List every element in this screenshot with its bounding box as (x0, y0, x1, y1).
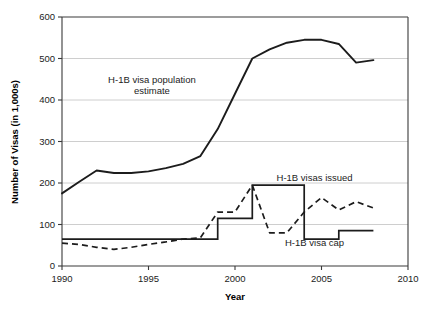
y-tick-label-100: 100 (39, 219, 55, 230)
x-tick-label-2000: 2000 (224, 273, 245, 284)
y-axis-title: Number of Visas (in 1,000s) (9, 80, 20, 204)
annotation-h-1b-visas-issued: H-1B visas issued (277, 172, 353, 183)
y-tick-label-0: 0 (50, 260, 55, 271)
x-tick-label-2005: 2005 (311, 273, 332, 284)
chart-container: 0100200300400500600 19901995200020052010… (0, 0, 434, 317)
y-tick-label-500: 500 (39, 53, 55, 64)
y-tick-label-300: 300 (39, 136, 55, 147)
annotation-h-1b-visa-cap: H-1B visa cap (285, 237, 344, 248)
y-tick-label-200: 200 (39, 177, 55, 188)
x-axis-title: Year (225, 291, 245, 302)
chart-background (0, 0, 434, 317)
x-tick-label-1995: 1995 (138, 273, 159, 284)
y-tick-label-400: 400 (39, 94, 55, 105)
x-tick-label-1990: 1990 (51, 273, 72, 284)
line-chart: 0100200300400500600 19901995200020052010… (0, 0, 434, 317)
y-tick-label-600: 600 (39, 11, 55, 22)
x-tick-label-2010: 2010 (397, 273, 418, 284)
